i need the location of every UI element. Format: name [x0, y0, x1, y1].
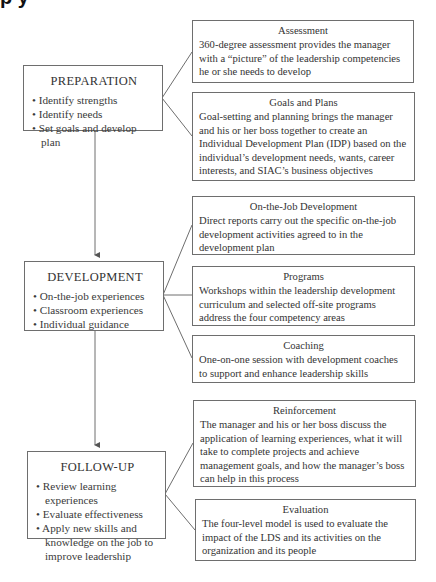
- detail-title: Coaching: [199, 339, 408, 352]
- bullet-item: Individual guidance: [33, 317, 157, 331]
- detail-title: Reinforcement: [200, 404, 409, 417]
- detail-title: Programs: [199, 270, 408, 283]
- detail-description: Workshops within the leadership developm…: [199, 284, 408, 325]
- bullet-item: Set goals and develop plan: [32, 121, 156, 149]
- detail-box-evaluation: Evaluation The four-level model is used …: [195, 499, 416, 561]
- detail-description: The manager and his or her boss discuss …: [200, 418, 409, 486]
- stage-box-development: DEVELOPMENT On-the-job experiences Class…: [24, 261, 164, 331]
- detail-box-programs: Programs Workshops within the leadership…: [192, 266, 415, 326]
- detail-box-on-the-job-development: On-the-Job Development Direct reports ca…: [192, 196, 415, 255]
- stage-box-follow-up: FOLLOW-UP Review learning experiences Ev…: [27, 451, 166, 539]
- detail-title: Goals and Plans: [199, 96, 408, 109]
- stage-title: PREPARATION: [32, 74, 156, 89]
- detail-box-goals-and-plans: Goals and Plans Goal-setting and plannin…: [192, 92, 415, 181]
- bullet-item: Classroom experiences: [33, 303, 157, 317]
- detail-description: One-on-one session with development coac…: [199, 353, 408, 380]
- detail-box-coaching: Coaching One-on-one session with develop…: [192, 335, 415, 383]
- bullet-item: Apply new skills and knowledge on the jo…: [36, 521, 159, 563]
- bullet-item: Review learning experiences: [36, 479, 159, 507]
- detail-title: On-the-Job Development: [199, 200, 408, 213]
- detail-description: Direct reports carry out the specific on…: [199, 214, 408, 255]
- detail-box-reinforcement: Reinforcement The manager and his or her…: [193, 400, 416, 487]
- stage-title: FOLLOW-UP: [36, 460, 159, 475]
- bullet-item: Evaluate effectiveness: [36, 507, 159, 521]
- detail-description: The four-level model is used to evaluate…: [202, 517, 409, 558]
- detail-title: Assessment: [199, 24, 407, 37]
- cut-off-heading-fragment: p y: [0, 0, 29, 9]
- stage-bullets: Identify strengths Identify needs Set go…: [32, 93, 156, 149]
- stage-box-preparation: PREPARATION Identify strengths Identify …: [23, 65, 163, 131]
- detail-description: Goal-setting and planning brings the man…: [199, 110, 408, 178]
- bullet-item: Identify strengths: [32, 93, 156, 107]
- detail-description: 360-degree assessment provides the manag…: [199, 38, 407, 79]
- bullet-item: On-the-job experiences: [33, 289, 157, 303]
- stage-title: DEVELOPMENT: [33, 270, 157, 285]
- bullet-item: Identify needs: [32, 107, 156, 121]
- stage-bullets: Review learning experiences Evaluate eff…: [36, 479, 159, 563]
- stage-bullets: On-the-job experiences Classroom experie…: [33, 289, 157, 331]
- detail-box-assessment: Assessment 360-degree assessment provide…: [192, 20, 414, 83]
- detail-title: Evaluation: [202, 503, 409, 516]
